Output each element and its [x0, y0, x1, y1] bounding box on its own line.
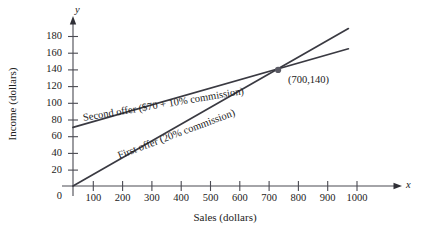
y-tick-label-80: 80: [34, 114, 62, 125]
x-tick-label-1000: 1000: [337, 192, 377, 203]
origin-label: 0: [34, 190, 62, 201]
y-axis-title: Income (dollars): [6, 54, 18, 154]
y-tick-label-120: 120: [34, 80, 62, 91]
y-axis: [70, 16, 76, 196]
y-tick-label-140: 140: [34, 63, 62, 74]
x-axis-title: Sales (dollars): [160, 211, 290, 223]
intersection-point-marker: [275, 67, 281, 73]
income-vs-sales-line-chart: 180 160 140 120 100 80 60 40 20 0 100 20…: [0, 0, 425, 237]
y-tick-label-160: 160: [34, 47, 62, 58]
y-tick-label-20: 20: [34, 164, 62, 175]
y-tick-label-60: 60: [34, 130, 62, 141]
y-tick-label-180: 180: [34, 30, 62, 41]
intersection-point-label: (700,140): [288, 74, 329, 85]
x-axis: [62, 183, 402, 189]
y-tick-label-100: 100: [34, 97, 62, 108]
y-tick-label-40: 40: [34, 147, 62, 158]
x-axis-variable-name: x: [406, 179, 411, 190]
y-axis-variable-name: y: [75, 4, 80, 15]
